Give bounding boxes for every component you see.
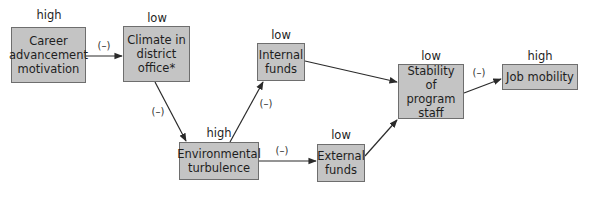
- node-label-line: Stability: [400, 64, 462, 78]
- node-label-line: Climate in: [127, 33, 185, 47]
- node-label-line: motivation: [9, 62, 88, 76]
- level-label-stability: low: [421, 50, 441, 63]
- node-climate-in-district-office: Climate in district office*: [123, 26, 190, 82]
- node-label-line: turbulence: [177, 161, 261, 175]
- edge-sign-career-climate: (–): [98, 40, 111, 52]
- edge-external-to-stability: [365, 120, 397, 156]
- level-label-career: high: [36, 9, 61, 22]
- node-label-line: funds: [317, 163, 365, 177]
- edge-stability-to-job: [464, 79, 501, 93]
- node-label-line: Career: [9, 34, 88, 48]
- edge-sign-climate-environmental: (–): [152, 106, 165, 118]
- level-label-environmental: high: [206, 127, 231, 140]
- level-label-internal: low: [271, 29, 291, 42]
- edge-internal-to-stability: [305, 61, 397, 82]
- node-label-line: funds: [259, 62, 303, 76]
- causal-diagram: high low low high low low high Career ad…: [0, 0, 591, 199]
- edge-sign-environmental-internal: (–): [260, 98, 273, 110]
- level-label-climate: low: [147, 12, 167, 25]
- level-label-external: low: [331, 129, 351, 142]
- node-environmental-turbulence: Environmental turbulence: [179, 142, 259, 180]
- node-label-line: of program: [400, 78, 462, 106]
- node-label-line: External: [317, 149, 365, 163]
- node-label-line: Job mobility: [506, 70, 574, 84]
- node-label-line: Environmental: [177, 147, 261, 161]
- edge-environmental-to-internal: [230, 82, 263, 142]
- node-label-line: Internal: [259, 48, 303, 62]
- level-label-job: high: [527, 50, 552, 63]
- edge-sign-stability-job: (–): [473, 67, 486, 79]
- node-job-mobility: Job mobility: [502, 64, 578, 90]
- node-stability-of-program-staff: Stability of program staff: [398, 64, 464, 119]
- node-label-line: staff: [400, 106, 462, 120]
- node-label-line: advancement: [9, 48, 88, 62]
- node-label-line: district: [127, 47, 185, 61]
- node-external-funds: External funds: [317, 144, 365, 182]
- node-internal-funds: Internal funds: [257, 43, 305, 81]
- edge-sign-environmental-external: (–): [276, 145, 289, 157]
- node-label-line: office*: [127, 61, 185, 75]
- edge-layer: [0, 0, 591, 199]
- node-career-advancement-motivation: Career advancement motivation: [11, 27, 86, 83]
